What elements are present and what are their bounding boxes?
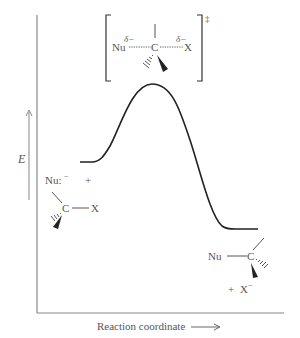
hashed-wedge-icon <box>256 259 268 268</box>
x-axis-label: Reaction coordinate <box>97 320 185 332</box>
product-plus: + <box>228 283 234 295</box>
left-bracket <box>106 15 111 81</box>
product-carbon: C <box>247 250 254 262</box>
solid-wedge-icon <box>157 55 168 72</box>
y-axis-label: E <box>17 152 26 166</box>
reaction-arrow-icon <box>191 324 220 330</box>
right-bracket <box>197 15 202 81</box>
product-lg-charge: − <box>248 281 253 290</box>
reactant-carbon: C <box>62 202 69 214</box>
hashed-wedge-icon <box>143 55 153 68</box>
reactant-plus: + <box>85 174 91 186</box>
solid-wedge-icon <box>251 263 258 278</box>
ts-leaving-group: X <box>184 41 192 53</box>
transition-state: ‡ Nu δ− C δ− X <box>106 14 210 81</box>
products: Nu C + X − <box>208 238 268 295</box>
reactant-nu-charge: − <box>64 172 69 181</box>
ts-nu-charge: δ− <box>124 34 134 44</box>
energy-curve <box>80 84 258 229</box>
reactant-leaving-group: X <box>91 202 99 214</box>
ts-carbon: C <box>151 41 158 53</box>
product-nucleophile: Nu <box>208 250 222 262</box>
double-dagger: ‡ <box>205 14 210 24</box>
reactants: Nu: − + C X <box>45 172 99 229</box>
reaction-energy-diagram: E ‡ Nu δ− C δ− X Nu: − + C X <box>0 0 300 338</box>
solid-wedge-icon <box>53 215 62 229</box>
energy-arrow-icon <box>26 110 32 200</box>
reactant-nucleophile: Nu: <box>45 174 62 186</box>
product-leaving-group: X <box>240 283 248 295</box>
